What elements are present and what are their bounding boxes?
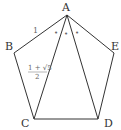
angle-mark-3: • [75,29,79,37]
edge-ab [14,15,67,53]
edge-de [98,53,114,119]
diagonal-label-numerator: 1 + √5 [28,64,52,72]
vertex-label-a: A [61,1,71,14]
vertex-label-e: E [111,40,119,53]
vertex-label-c: C [21,117,29,130]
vertex-label-d: D [104,117,113,130]
diagonal-label-denominator: 2 [35,73,39,81]
side-length-label: 1 [33,26,38,35]
angle-mark-1: • [54,29,58,37]
diagonal-ad [67,15,98,119]
vertex-label-b: B [5,40,13,53]
edge-bc [14,53,34,119]
pentagon-diagram: A B C D E 1 1 + √5 2 • • • [0,0,121,130]
angle-mark-2: • [64,30,68,38]
